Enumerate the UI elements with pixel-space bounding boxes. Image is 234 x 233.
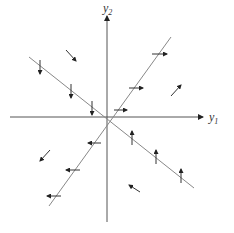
eigenline-b bbox=[49, 37, 171, 206]
arrow-down-right-icon bbox=[66, 50, 76, 61]
y1-axis-label: y1 bbox=[208, 110, 218, 126]
arrow-up-right-icon bbox=[171, 85, 181, 96]
phase-portrait-diagram: y1 y2 bbox=[0, 0, 234, 233]
arrow-up-left-icon bbox=[129, 185, 140, 192]
eigenline-a bbox=[29, 57, 194, 188]
arrow-down-left-icon bbox=[40, 150, 50, 161]
y2-axis-label: y2 bbox=[102, 1, 112, 17]
